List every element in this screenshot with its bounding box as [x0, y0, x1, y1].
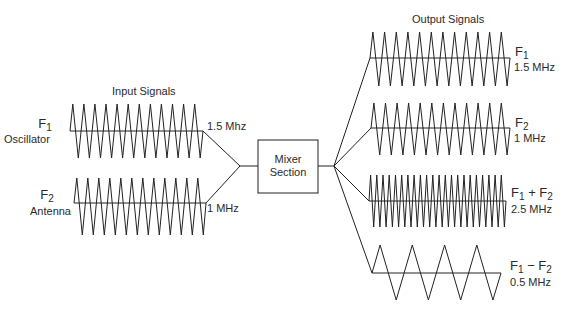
- output-wave-f1: [370, 32, 510, 86]
- output-f2-label: F2: [515, 116, 529, 130]
- input-f2-label: F2: [22, 188, 72, 202]
- output-f2-frequency: 1 MHz: [514, 132, 546, 145]
- input-wave-oscillator: [70, 104, 203, 158]
- output-wave-sum: [369, 175, 506, 227]
- input-connector: [203, 131, 240, 203]
- output-sum-frequency: 2.5 MHz: [511, 203, 552, 216]
- output-wave-difference: [372, 245, 501, 300]
- input-wave-antenna: [74, 178, 206, 235]
- output-f1-frequency: 1.5 MHz: [514, 61, 555, 74]
- output-wave-f2: [371, 103, 510, 155]
- input-f1-label: F1: [20, 117, 70, 131]
- output-sum-label: F1 + F2: [511, 186, 553, 200]
- input-f1-frequency: 1.5 Mhz: [207, 120, 246, 133]
- mixer-label-line2: Section: [258, 166, 318, 179]
- output-signals-title: Output Signals: [412, 13, 484, 26]
- input-f1-name: Oscillator: [4, 133, 50, 146]
- output-difference-frequency: 0.5 MHz: [510, 276, 551, 289]
- mixer-label-line1: Mixer: [258, 153, 318, 166]
- input-f2-frequency: 1 MHz: [207, 202, 239, 215]
- output-difference-label: F1 − F2: [510, 259, 552, 273]
- input-signals-title: Input Signals: [112, 85, 176, 98]
- output-f1-label: F1: [515, 45, 529, 59]
- input-f2-name: Antenna: [30, 205, 71, 218]
